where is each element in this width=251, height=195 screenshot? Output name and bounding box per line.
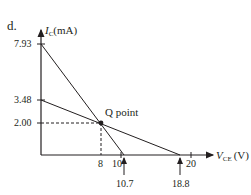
q-point-label: Q point bbox=[105, 107, 138, 118]
chart-plot bbox=[0, 0, 251, 195]
q-point-marker bbox=[99, 121, 104, 126]
x-arrow-label-18.8: 18.8 bbox=[172, 179, 190, 189]
dc-load-line bbox=[41, 44, 124, 155]
x-arrow-label-10.7: 10.7 bbox=[116, 179, 134, 189]
x-tick-label-20: 20 bbox=[186, 159, 196, 169]
x-tick-label-10: 10 bbox=[112, 159, 122, 169]
y-axis-label: IC(mA) bbox=[45, 25, 77, 38]
x-tick-label-8: 8 bbox=[98, 159, 103, 169]
y-tick-label-7.93: 7.93 bbox=[14, 39, 32, 49]
x-axis-label: VCE(V) bbox=[216, 150, 249, 163]
y-tick-label-2.00: 2.00 bbox=[14, 118, 32, 128]
y-tick-label-3.48: 3.48 bbox=[14, 95, 32, 105]
